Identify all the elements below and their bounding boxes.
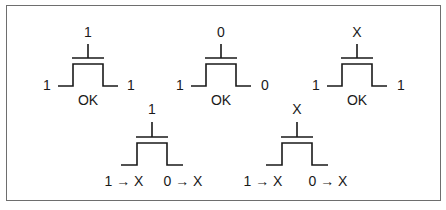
transistor-3: X 1 1 OK [312, 24, 405, 108]
gate-label: 0 [217, 24, 225, 40]
transistor-1: 1 1 1 OK [43, 24, 135, 108]
transistor-symbol-icon [191, 44, 251, 86]
gate-label: X [352, 24, 362, 40]
drain-label: 1 [397, 77, 405, 93]
source-label: 1 [176, 77, 184, 93]
drain-label: 0 → X [164, 173, 204, 189]
transistor-symbol-icon [266, 122, 328, 165]
source-label: 1 [312, 77, 320, 93]
drain-label: 0 → X [309, 173, 349, 189]
transistor-symbol-icon [121, 122, 183, 165]
source-label: 1 → X [244, 173, 284, 189]
drain-label: 0 [261, 77, 269, 93]
drain-label: 1 [127, 77, 135, 93]
transistor-4: 1 1 → X 0 → X [105, 101, 204, 189]
transistor-2: 0 1 0 OK [176, 24, 269, 108]
gate-label: 1 [148, 101, 156, 117]
gate-label: 1 [84, 24, 92, 40]
transistor-5: X 1 → X 0 → X [244, 101, 349, 189]
result-label: OK [347, 92, 368, 108]
transistor-diagram: 1 1 1 OK 0 1 0 OK X 1 1 OK 1 1 → X 0 → X… [0, 0, 446, 210]
source-label: 1 [43, 77, 51, 93]
result-label: OK [211, 92, 232, 108]
transistor-symbol-icon [58, 44, 118, 86]
gate-label: X [292, 101, 302, 117]
transistor-symbol-icon [327, 44, 387, 86]
result-label: OK [78, 92, 99, 108]
source-label: 1 → X [105, 173, 145, 189]
